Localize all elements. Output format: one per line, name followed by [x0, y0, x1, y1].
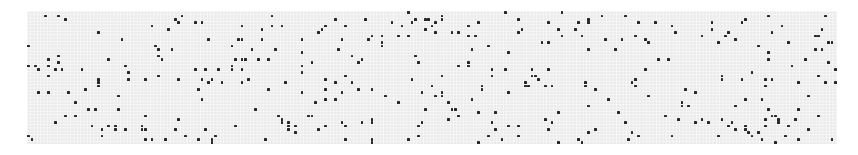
- live-cell[interactable]: [341, 121, 344, 124]
- live-cell[interactable]: [781, 25, 784, 28]
- live-cell[interactable]: [257, 58, 260, 61]
- live-cell[interactable]: [644, 38, 647, 41]
- live-cell[interactable]: [67, 91, 70, 94]
- live-cell[interactable]: [407, 35, 410, 38]
- live-cell[interactable]: [494, 128, 497, 131]
- live-cell[interactable]: [787, 41, 790, 44]
- live-cell[interactable]: [294, 131, 297, 134]
- live-cell[interactable]: [774, 141, 777, 144]
- live-cell[interactable]: [741, 21, 744, 24]
- live-cell[interactable]: [184, 135, 187, 138]
- live-cell[interactable]: [711, 28, 714, 31]
- live-cell[interactable]: [34, 65, 37, 68]
- live-cell[interactable]: [481, 88, 484, 91]
- live-cell[interactable]: [657, 58, 660, 61]
- live-cell[interactable]: [474, 35, 477, 38]
- live-cell[interactable]: [517, 31, 520, 34]
- live-cell[interactable]: [821, 28, 824, 31]
- live-cell[interactable]: [627, 138, 630, 141]
- live-cell[interactable]: [91, 125, 94, 128]
- live-cell[interactable]: [84, 88, 87, 91]
- live-cell[interactable]: [537, 78, 540, 81]
- live-cell[interactable]: [281, 121, 284, 124]
- live-cell[interactable]: [371, 141, 374, 144]
- live-cell[interactable]: [587, 18, 590, 21]
- live-cell[interactable]: [441, 15, 444, 18]
- live-cell[interactable]: [261, 38, 264, 41]
- live-cell[interactable]: [427, 18, 430, 21]
- live-cell[interactable]: [341, 91, 344, 94]
- live-cell[interactable]: [181, 15, 184, 18]
- live-cell[interactable]: [721, 75, 724, 78]
- live-cell[interactable]: [234, 125, 237, 128]
- live-cell[interactable]: [47, 58, 50, 61]
- live-cell[interactable]: [507, 51, 510, 54]
- live-cell[interactable]: [217, 68, 220, 71]
- live-cell[interactable]: [424, 18, 427, 21]
- live-cell[interactable]: [751, 135, 754, 138]
- live-cell[interactable]: [334, 81, 337, 84]
- live-cell[interactable]: [241, 38, 244, 41]
- live-cell[interactable]: [531, 75, 534, 78]
- live-cell[interactable]: [114, 125, 117, 128]
- live-cell[interactable]: [194, 21, 197, 24]
- live-cell[interactable]: [814, 48, 817, 51]
- live-cell[interactable]: [764, 78, 767, 81]
- live-cell[interactable]: [784, 135, 787, 138]
- live-cell[interactable]: [574, 28, 577, 31]
- live-cell[interactable]: [487, 135, 490, 138]
- live-cell[interactable]: [311, 61, 314, 64]
- live-cell[interactable]: [241, 25, 244, 28]
- live-cell[interactable]: [764, 118, 767, 121]
- live-cell[interactable]: [64, 115, 67, 118]
- live-cell[interactable]: [517, 135, 520, 138]
- live-cell[interactable]: [601, 15, 604, 18]
- live-cell[interactable]: [287, 128, 290, 131]
- live-cell[interactable]: [767, 51, 770, 54]
- live-cell[interactable]: [431, 25, 434, 28]
- live-cell[interactable]: [407, 138, 410, 141]
- live-cell[interactable]: [667, 58, 670, 61]
- live-cell[interactable]: [204, 68, 207, 71]
- live-cell[interactable]: [721, 78, 724, 81]
- live-cell[interactable]: [541, 41, 544, 44]
- live-cell[interactable]: [421, 121, 424, 124]
- live-cell[interactable]: [821, 48, 824, 51]
- live-cell[interactable]: [681, 105, 684, 108]
- live-cell[interactable]: [777, 121, 780, 124]
- live-cell[interactable]: [251, 48, 254, 51]
- live-cell[interactable]: [741, 78, 744, 81]
- live-cell[interactable]: [117, 95, 120, 98]
- live-cell[interactable]: [631, 131, 634, 134]
- live-cell[interactable]: [307, 115, 310, 118]
- live-cell[interactable]: [744, 18, 747, 21]
- live-cell[interactable]: [381, 41, 384, 44]
- live-cell[interactable]: [27, 65, 30, 68]
- live-cell[interactable]: [201, 98, 204, 101]
- live-cell[interactable]: [644, 68, 647, 71]
- live-cell[interactable]: [631, 81, 634, 84]
- live-cell[interactable]: [214, 135, 217, 138]
- live-cell[interactable]: [247, 78, 250, 81]
- live-cell[interactable]: [767, 108, 770, 111]
- live-cell[interactable]: [517, 18, 520, 21]
- live-cell[interactable]: [551, 85, 554, 88]
- live-cell[interactable]: [491, 121, 494, 124]
- live-cell[interactable]: [617, 111, 620, 114]
- live-cell[interactable]: [324, 125, 327, 128]
- live-cell[interactable]: [524, 81, 527, 84]
- live-cell[interactable]: [727, 125, 730, 128]
- live-cell[interactable]: [701, 118, 704, 121]
- live-cell[interactable]: [831, 41, 834, 44]
- live-cell[interactable]: [664, 115, 667, 118]
- live-cell[interactable]: [557, 141, 560, 144]
- live-cell[interactable]: [391, 21, 394, 24]
- live-cell[interactable]: [791, 65, 794, 68]
- live-cell[interactable]: [674, 31, 677, 34]
- live-cell[interactable]: [687, 105, 690, 108]
- live-cell[interactable]: [471, 98, 474, 101]
- live-cell[interactable]: [127, 71, 130, 74]
- live-cell[interactable]: [457, 31, 460, 34]
- live-cell[interactable]: [547, 21, 550, 24]
- live-cell[interactable]: [654, 21, 657, 24]
